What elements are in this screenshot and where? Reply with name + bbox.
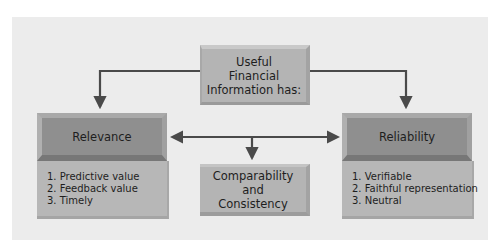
root-line-2: Financial bbox=[229, 69, 279, 83]
list-item: 2. Faithful representation bbox=[352, 183, 472, 195]
arrow-to-relevance bbox=[100, 71, 200, 107]
reliability-list: 1. Verifiable 2. Faithful representation… bbox=[342, 161, 474, 219]
root-line-1: Useful bbox=[236, 55, 272, 69]
useful-financial-information-box: Useful Financial Information has: bbox=[200, 45, 310, 105]
list-item: 1. Predictive value bbox=[47, 171, 167, 183]
list-item: 3. Neutral bbox=[352, 195, 472, 207]
relevance-header: Relevance bbox=[37, 113, 167, 161]
list-item: 3. Timely bbox=[47, 195, 167, 207]
comparability-line-1: Comparability bbox=[213, 169, 294, 183]
reliability-header: Reliability bbox=[342, 113, 472, 161]
root-line-3: Information has: bbox=[207, 83, 301, 97]
comparability-consistency-box: Comparability and Consistency bbox=[200, 164, 310, 216]
comparability-line-3: Consistency bbox=[218, 197, 288, 211]
list-item: 2. Feedback value bbox=[47, 183, 167, 195]
reliability-title: Reliability bbox=[379, 130, 435, 144]
relevance-title: Relevance bbox=[72, 130, 131, 144]
arrow-to-reliability bbox=[310, 71, 406, 107]
list-item: 1. Verifiable bbox=[352, 171, 472, 183]
comparability-line-2: and bbox=[242, 183, 264, 197]
relevance-list: 1. Predictive value 2. Feedback value 3.… bbox=[37, 161, 169, 219]
